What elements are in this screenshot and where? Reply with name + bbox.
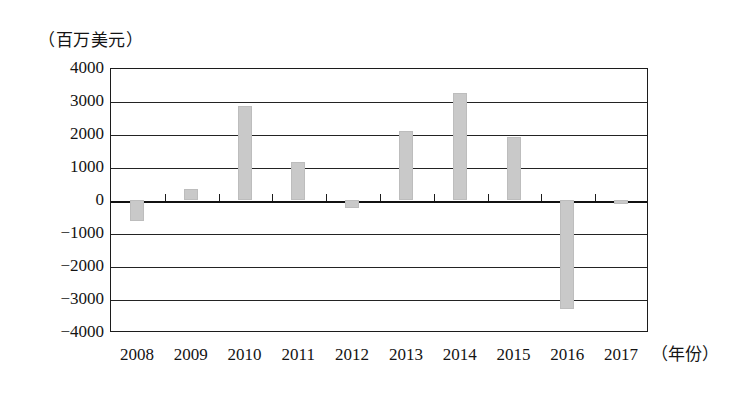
x-axis-tick-label: 2008 [110, 344, 164, 366]
x-axis-tick-labels: 2008200920102011201220132014201520162017 [110, 344, 648, 370]
y-axis-tick-label: −2000 [34, 257, 104, 274]
gridline [111, 267, 647, 268]
x-axis-tick-label: 2011 [271, 344, 325, 366]
y-axis-tick-label: −3000 [34, 290, 104, 307]
gridline [111, 168, 647, 169]
gridline [111, 234, 647, 235]
x-axis-caption: （年份） [651, 344, 719, 366]
plot-area [110, 68, 648, 332]
x-axis-tick-label: 2015 [487, 344, 541, 366]
y-axis-tick-label: 3000 [34, 92, 104, 109]
x-axis-tick-label: 2013 [379, 344, 433, 366]
y-axis-unit-caption: （百万美元） [38, 26, 143, 51]
x-axis-tick [380, 194, 381, 201]
y-axis-tick-label: −1000 [34, 224, 104, 241]
y-axis-tick-label: 0 [34, 191, 104, 208]
x-axis-tick-label: 2012 [325, 344, 379, 366]
gridline [111, 102, 647, 103]
x-axis-tick [488, 194, 489, 201]
gridline [111, 300, 647, 301]
bar-chart: （百万美元） 40003000200010000−1000−2000−3000−… [0, 0, 751, 395]
y-axis-tick-label: 2000 [34, 125, 104, 142]
x-axis-tick-label: 2016 [540, 344, 594, 366]
zero-axis-line [111, 201, 647, 203]
x-axis-tick [434, 194, 435, 201]
x-axis-tick-label: 2010 [218, 344, 272, 366]
x-axis-tick-label: 2014 [433, 344, 487, 366]
x-axis-tick-label: 2017 [594, 344, 648, 366]
x-axis-tick [541, 194, 542, 201]
y-axis-tick-labels: 40003000200010000−1000−2000−3000−4000 [30, 68, 104, 332]
x-axis-tick [165, 194, 166, 201]
gridline [111, 135, 647, 136]
y-axis-tick-label: −4000 [34, 323, 104, 340]
x-axis-tick [272, 194, 273, 201]
x-axis-tick [326, 194, 327, 201]
y-axis-tick-label: 4000 [34, 59, 104, 76]
x-axis-tick [219, 194, 220, 201]
x-axis-tick-label: 2009 [164, 344, 218, 366]
x-axis-tick [595, 194, 596, 201]
y-axis-tick-label: 1000 [34, 158, 104, 175]
